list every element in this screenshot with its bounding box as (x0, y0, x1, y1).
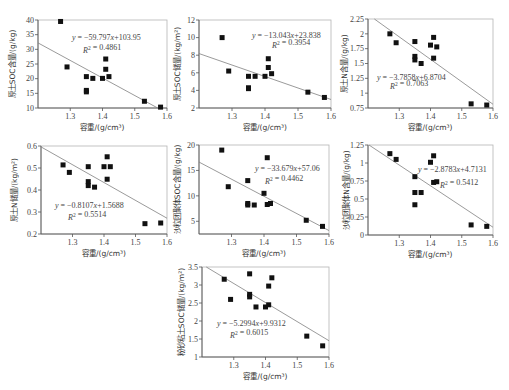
y-tick-label: 1.25 (350, 141, 364, 150)
panel-soil-soc-storage: 246810121.31.41.51.6容重/(g/cm³)原土SOC储量/(k… (172, 16, 336, 132)
y-tick-label: 1 (360, 89, 364, 98)
y-tick-label: 0.2 (27, 230, 37, 239)
panel-soil-n-storage: 0.20.30.40.50.61.31.41.51.6容重/(g/cm³)原土N… (9, 142, 172, 258)
y-tick-label: 0.4 (27, 186, 37, 195)
data-point (106, 74, 111, 79)
x-tick-label: 1.4 (426, 239, 436, 248)
data-point (84, 89, 89, 94)
data-point (419, 61, 424, 66)
equation-part: +9.9312 (259, 319, 286, 328)
y-tick-label: 3 (194, 281, 198, 290)
data-point (108, 164, 113, 169)
y-tick-label: 10 (26, 104, 34, 113)
regression-equation: y = −33.679x+57.06 (254, 164, 320, 173)
y-tick-label: 0 (360, 231, 364, 240)
data-point (412, 39, 417, 44)
x-axis-label: 容重/(g/cm³) (408, 122, 452, 132)
data-point (320, 224, 325, 229)
r-squared-value: = 0.3954 (280, 38, 311, 47)
data-point (105, 177, 110, 182)
data-point (320, 343, 325, 348)
data-point (266, 302, 271, 307)
data-point (412, 202, 417, 207)
data-point (268, 201, 273, 206)
x-tick-label: 1.4 (261, 361, 271, 370)
data-point (387, 31, 392, 36)
data-point (84, 74, 89, 79)
x-axis-label: 容重/(g/cm³) (80, 122, 124, 132)
x-axis-label: 容重/(g/cm³) (408, 249, 452, 259)
data-point (158, 221, 163, 226)
data-point (103, 57, 108, 62)
x-tick-label: 1.4 (426, 112, 436, 121)
data-point (90, 76, 95, 81)
data-point (434, 44, 439, 49)
y-axis-label: 原土SOC含量/(g/kg) (7, 30, 17, 99)
figure-canvas: 101520253035401.31.41.51.6容重/(g/cm³)原土SO… (0, 0, 509, 390)
x-tick-label: 1.3 (227, 112, 237, 121)
figure-page: 101520253035401.31.41.51.6容重/(g/cm³)原土SO… (0, 0, 509, 390)
equation-part: = −59.797 (76, 33, 111, 42)
y-tick-label: 2 (194, 317, 198, 326)
data-point (322, 95, 327, 100)
data-point (305, 90, 310, 95)
y-tick-label: 10 (187, 192, 195, 201)
data-point (86, 183, 91, 188)
data-point (253, 304, 258, 309)
y-tick-label: 8 (191, 51, 195, 60)
x-tick-label: 1.5 (131, 238, 141, 247)
y-tick-label: 1.5 (354, 59, 364, 68)
x-tick-label: 1.5 (457, 112, 467, 121)
x-tick-label: 1.6 (162, 112, 172, 121)
plot-frame (368, 145, 493, 235)
data-point (269, 275, 274, 280)
y-axis-label: 原土SOC储量/(kg/m²) (172, 27, 182, 101)
data-point (222, 277, 227, 282)
data-point (469, 222, 474, 227)
data-point (431, 35, 436, 40)
y-tick-label: 35 (26, 30, 34, 39)
x-tick-label: 1.4 (259, 238, 269, 247)
data-point (419, 190, 424, 195)
x-tick-label: 1.5 (457, 239, 467, 248)
data-point (103, 67, 108, 72)
data-point (387, 151, 392, 156)
plot-frame (41, 146, 167, 234)
r-squared-label: R2 = 0.7063 (389, 79, 428, 91)
r-squared-value: = 0.6015 (238, 328, 269, 337)
x-axis-label: 容重/(g/cm³) (243, 371, 287, 381)
data-point (247, 271, 252, 276)
y-tick-label: 1.25 (350, 74, 364, 83)
data-point (431, 153, 436, 158)
regression-equation: y = −2.8783x+4.7131 (417, 165, 487, 174)
equation-part: +1.5688 (97, 201, 124, 210)
regression-equation: y = −5.2994x+9.9312 (216, 319, 286, 328)
y-tick-label: 10 (187, 33, 195, 42)
data-point (428, 43, 433, 48)
y-tick-label: 12 (187, 16, 195, 25)
y-axis-label: 原土N储量/(kg/m²) (9, 158, 19, 222)
r-squared-value: = 0.4861 (91, 43, 122, 52)
y-tick-label: 0.5 (27, 164, 37, 173)
y-tick-label: 25 (26, 60, 34, 69)
equation-part: = −0.8107 (59, 201, 94, 210)
panel-silt-clay-soc-storage: 11.522.533.51.31.41.51.6容重/(g/cm³)粉砂粘土SO… (176, 263, 334, 381)
data-point (245, 178, 250, 183)
x-tick-label: 1.6 (326, 112, 336, 121)
data-point (266, 56, 271, 61)
data-point (269, 71, 274, 76)
data-point (412, 57, 417, 62)
x-tick-label: 1.3 (227, 238, 237, 247)
r-squared-value: = 0.5412 (448, 178, 479, 187)
r-squared-label: R2 = 0.3954 (271, 38, 310, 50)
x-tick-label: 1.4 (98, 112, 108, 121)
y-axis-label: 沙粒团聚体N含量/(g/kg) (341, 150, 351, 229)
data-point (105, 154, 110, 159)
data-point (86, 164, 91, 169)
y-tick-label: 0.6 (27, 142, 37, 151)
data-point (304, 334, 309, 339)
x-axis-label: 容重/(g/cm³) (82, 248, 126, 258)
data-point (67, 170, 72, 175)
r-squared-value: = 0.7063 (398, 79, 429, 88)
panel-sand-aggregate-soc-content: 51015201.31.41.51.6容重/(g/cm³)沙粒团聚体SOC含量/… (172, 141, 334, 258)
